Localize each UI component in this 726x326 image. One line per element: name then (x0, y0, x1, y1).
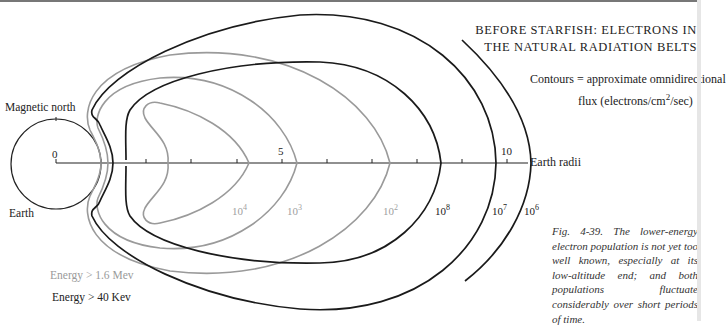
legend-energy-low: Energy > 40 Kev (52, 291, 131, 303)
figure-title-line2: THE NATURAL RADIATION BELTS (475, 39, 697, 56)
legend-energy-high: Energy > 1.6 Mev (50, 269, 134, 281)
axis-tick-label-0: 0 (52, 148, 58, 160)
contour-label-1e8: 108 (435, 203, 450, 217)
figure-caption: Fig. 4-39. The lower-energy electron pop… (552, 224, 698, 326)
contour-label-1e7: 107 (492, 203, 507, 217)
axis-label-earth-radii: Earth radii (530, 155, 581, 170)
flux-units: flux (electrons/cm2/sec) (578, 92, 693, 109)
axis-tick-label-10: 10 (501, 145, 512, 157)
contour-label-1e4: 104 (232, 203, 247, 217)
page-edge-shadow (697, 0, 701, 321)
figure-title-line1: BEFORE STARFISH: ELECTRONS IN (475, 22, 697, 39)
label-magnetic-north: Magnetic north (5, 101, 76, 113)
low-energy-contours (92, 15, 531, 310)
axis-tick-label-5: 5 (278, 145, 284, 157)
contour-label-1e2: 102 (383, 203, 398, 217)
contour-label-1e6: 106 (524, 203, 539, 217)
contour-label-1e3: 103 (287, 203, 302, 217)
label-earth: Earth (9, 207, 34, 219)
figure-title: BEFORE STARFISH: ELECTRONS IN THE NATURA… (475, 22, 697, 56)
earth-circle (11, 119, 101, 209)
